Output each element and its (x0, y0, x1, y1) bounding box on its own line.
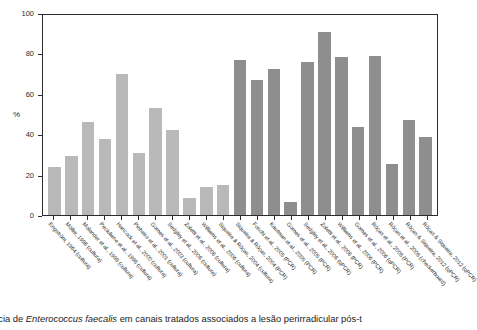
y-axis: % 020406080100 (0, 0, 42, 216)
x-tick-mark (393, 216, 394, 220)
bar (166, 130, 178, 215)
y-tick-label: 0 (30, 212, 34, 220)
x-tick-mark (138, 216, 139, 220)
bar (352, 127, 364, 215)
x-tick-mark (121, 216, 122, 220)
bar-slot (316, 15, 333, 215)
x-tick-mark (104, 216, 105, 220)
x-tick-mark (274, 216, 275, 220)
bar (133, 153, 145, 215)
bar-slot (215, 15, 232, 215)
x-tick-mark (359, 216, 360, 220)
bar-slot (417, 15, 434, 215)
bar (116, 74, 128, 215)
x-tick-mark (308, 216, 309, 220)
bar (217, 185, 229, 215)
x-tick-mark (342, 216, 343, 220)
x-tick-mark (206, 216, 207, 220)
bar (183, 198, 195, 215)
x-tick-mark (410, 216, 411, 220)
y-axis-title: % (13, 110, 20, 119)
x-tick-mark (87, 216, 88, 220)
x-tick-mark (223, 216, 224, 220)
bar (419, 137, 431, 215)
bar (48, 167, 60, 215)
x-tick-mark (70, 216, 71, 220)
bar (200, 187, 212, 215)
bar-slot (299, 15, 316, 215)
bar-slot (114, 15, 131, 215)
bar-slot (46, 15, 63, 215)
bar-slot (350, 15, 367, 215)
y-tick-label: 100 (21, 10, 34, 18)
figure-caption: ncia de Enterococcus faecalis em canais … (0, 312, 446, 326)
bar-slot (282, 15, 299, 215)
bar (251, 80, 263, 215)
bar (149, 108, 161, 215)
x-tick-mark (427, 216, 428, 220)
x-tick-mark (325, 216, 326, 220)
x-axis-labels: Engström, 1964 (cultura)Möller, 1996 (cu… (42, 221, 438, 311)
y-tick-label: 40 (26, 131, 34, 139)
bar-slot (97, 15, 114, 215)
bar (284, 202, 296, 215)
bar (99, 139, 111, 215)
x-tick-mark (53, 216, 54, 220)
y-tick-label: 80 (26, 51, 34, 59)
x-tick-mark (291, 216, 292, 220)
bar-slot (232, 15, 249, 215)
bar-slot (333, 15, 350, 215)
bar (301, 62, 313, 215)
bar-slot (164, 15, 181, 215)
bar (369, 56, 381, 215)
x-tick-mark (257, 216, 258, 220)
bar (335, 57, 347, 215)
bar (386, 164, 398, 215)
bar-slot (249, 15, 266, 215)
bar-group (43, 15, 437, 215)
caption-text: ncia de Enterococcus faecalis em canais … (0, 313, 362, 324)
x-tick-mark (240, 216, 241, 220)
bar-slot (367, 15, 384, 215)
x-tick-mark (155, 216, 156, 220)
bar-slot (198, 15, 215, 215)
y-tick-label: 60 (26, 91, 34, 99)
bar-slot (147, 15, 164, 215)
x-tick-mark (172, 216, 173, 220)
bar (82, 122, 94, 215)
bar (65, 156, 77, 215)
bar (234, 60, 246, 215)
y-tick-label: 20 (26, 172, 34, 180)
bar-slot (63, 15, 80, 215)
bar (268, 69, 280, 215)
bar-slot (80, 15, 97, 215)
x-tick-mark (376, 216, 377, 220)
plot-area (42, 14, 438, 216)
bar (318, 32, 330, 215)
bar-slot (130, 15, 147, 215)
bar-slot (181, 15, 198, 215)
bar-slot (265, 15, 282, 215)
bar (403, 120, 415, 215)
x-tick-mark (189, 216, 190, 220)
bar-slot (400, 15, 417, 215)
bar-slot (384, 15, 401, 215)
